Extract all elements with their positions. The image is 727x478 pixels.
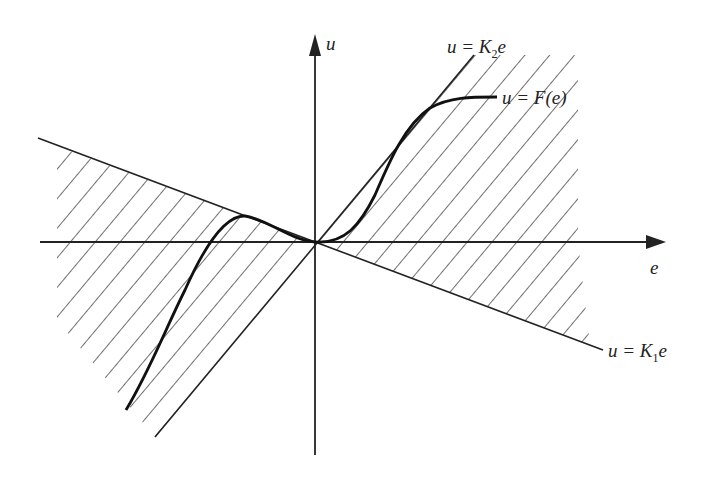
e-axis-label: e <box>650 258 658 277</box>
u-axis-arrow-icon <box>309 34 321 56</box>
k1-line-label: u = K1e <box>608 341 667 360</box>
e-axis-arrow-icon <box>646 235 666 249</box>
u-axis-label: u <box>326 34 336 53</box>
k2-label-text: u = K <box>447 36 492 57</box>
diagram-graphics <box>0 0 727 478</box>
k2-label-suffix: e <box>498 36 506 57</box>
k1-subscript: 1 <box>653 351 659 365</box>
k1-label-text: u = K <box>608 340 653 361</box>
sector-nonlinearity-diagram: u e u = K2e u = F(e) u = K1e <box>0 0 727 478</box>
hatched-sector-left <box>40 140 315 440</box>
k1-label-suffix: e <box>659 340 667 361</box>
curve-label: u = F(e) <box>502 88 567 107</box>
k2-line-label: u = K2e <box>447 37 506 56</box>
k2-subscript: 2 <box>492 47 498 61</box>
